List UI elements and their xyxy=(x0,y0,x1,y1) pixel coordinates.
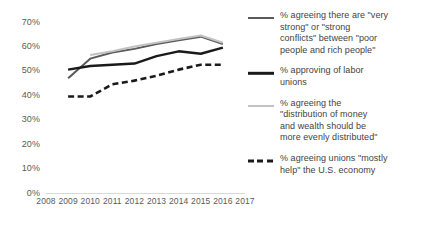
legend-item-3[interactable]: % agreeing the "distribution of money an… xyxy=(248,98,436,144)
x-axis-tick-label: 2012 xyxy=(125,197,144,206)
solid-black-line-icon xyxy=(248,67,274,79)
series-container xyxy=(0,0,245,226)
x-axis-tick-label: 2014 xyxy=(169,197,188,206)
legend-label: % agreeing the "distribution of money an… xyxy=(280,98,377,144)
chart-legend: % agreeing there are "very strong" or "s… xyxy=(248,10,436,185)
x-axis-tick-label: 2010 xyxy=(81,197,100,206)
x-axis-tick-labels: 2008200920102011201220132014201520162017 xyxy=(0,197,245,217)
x-axis-tick-label: 2017 xyxy=(235,197,254,206)
x-axis-tick-label: 2009 xyxy=(58,197,77,206)
line-chart: 0%10%20%30%40%50%60%70% 2008200920102011… xyxy=(0,0,436,226)
x-axis-tick-label: 2011 xyxy=(103,197,122,206)
solid-gray-line-icon xyxy=(248,12,274,24)
series-line-4 xyxy=(68,65,223,97)
x-axis-tick-label: 2013 xyxy=(147,197,166,206)
series-line-1 xyxy=(68,37,223,79)
legend-item-1[interactable]: % agreeing there are "very strong" or "s… xyxy=(248,10,436,56)
solid-lightgray-line-icon xyxy=(248,100,274,112)
x-axis-tick-label: 2008 xyxy=(36,197,55,206)
legend-label: % approving of labor unions xyxy=(280,65,364,88)
legend-item-2[interactable]: % approving of labor unions xyxy=(248,65,436,88)
plot-area: 0%10%20%30%40%50%60%70% 2008200920102011… xyxy=(0,0,245,226)
dashed-black-line-icon xyxy=(248,155,274,167)
legend-label: % agreeing there are "very strong" or "s… xyxy=(280,10,388,56)
legend-item-4[interactable]: % agreeing unions "mostly help" the U.S.… xyxy=(248,153,436,176)
legend-label: % agreeing unions "mostly help" the U.S.… xyxy=(280,153,388,176)
x-axis-tick-label: 2015 xyxy=(191,197,210,206)
x-axis-tick-label: 2016 xyxy=(213,197,232,206)
